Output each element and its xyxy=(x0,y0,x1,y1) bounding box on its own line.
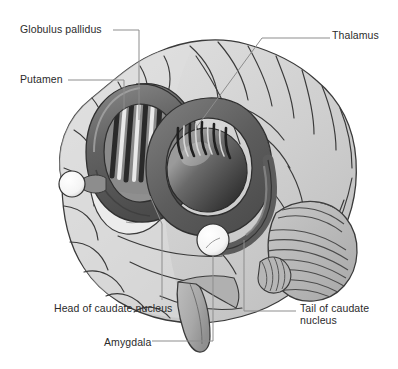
label-head-of-caudate-nucleus: Head of caudate nucleus xyxy=(54,303,172,315)
label-thalamus: Thalamus xyxy=(332,30,379,42)
amygdala-sphere-right xyxy=(197,224,229,256)
label-tail-of-caudate-nucleus: Tail of caudate nucleus xyxy=(300,303,369,326)
brain-diagram: Globulus pallidus Thalamus Putamen Head … xyxy=(0,0,398,369)
label-putamen: Putamen xyxy=(20,74,63,86)
label-globus-pallidus: Globulus pallidus xyxy=(20,24,102,36)
label-amygdala: Amygdala xyxy=(104,337,152,349)
